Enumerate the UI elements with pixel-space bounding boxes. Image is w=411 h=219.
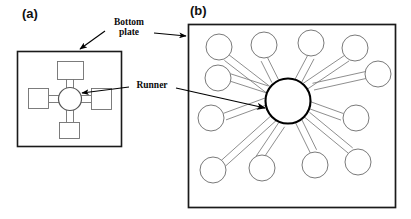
bottom-plate-leader-a bbox=[80, 31, 105, 49]
cavity-10 bbox=[249, 155, 275, 181]
figure-root: (a) (b) Bottom plate Runner bbox=[0, 0, 411, 219]
cavity-1 bbox=[206, 34, 232, 60]
cavity-9 bbox=[200, 157, 226, 183]
cavity-8 bbox=[343, 105, 369, 131]
runner-annotation: Runner bbox=[131, 80, 173, 90]
bottom-plate-leader-b bbox=[154, 33, 186, 36]
cavity-4 bbox=[342, 35, 368, 61]
panel-a-pad-left bbox=[29, 89, 49, 109]
bottom-plate-annotation-line2: plate bbox=[119, 27, 139, 37]
cavity-6 bbox=[365, 61, 391, 87]
panel-a-label: (a) bbox=[22, 6, 38, 21]
cavity-2 bbox=[251, 32, 277, 58]
panel-a-pad-top bbox=[58, 62, 84, 80]
cavity-3 bbox=[298, 30, 324, 56]
cavity-11 bbox=[302, 152, 328, 178]
cavity-12 bbox=[345, 149, 371, 175]
panel-a-group bbox=[18, 52, 122, 147]
cavity-5 bbox=[205, 65, 231, 91]
bottom-plate-annotation: Bottom plate bbox=[106, 17, 152, 37]
panel-a-runner-hub bbox=[59, 88, 82, 111]
figure-canvas bbox=[0, 0, 411, 219]
cavity-7 bbox=[198, 105, 224, 131]
panel-b-label: (b) bbox=[190, 3, 207, 18]
panel-a-pad-bottom bbox=[60, 123, 80, 139]
bottom-plate-annotation-line1: Bottom bbox=[114, 17, 144, 27]
panel-b-runner-hub bbox=[266, 79, 311, 124]
panel-b-group bbox=[189, 25, 396, 208]
